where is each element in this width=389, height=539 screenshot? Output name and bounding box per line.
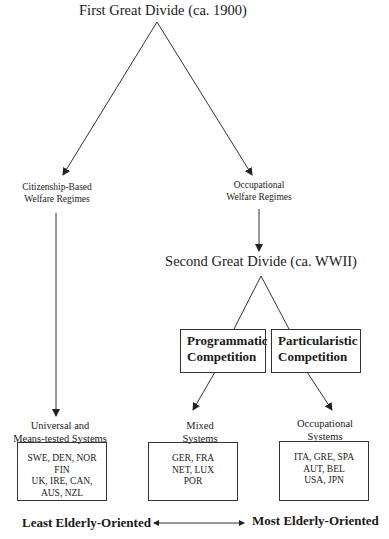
country-line: UK, IRE, CAN, [18,476,106,488]
first-divide-left-arrow [63,22,157,175]
second-divide-title: Second Great Divide (ca. WWII) [165,253,357,270]
programmatic-to-mixed-arrow [193,372,215,410]
particularistic-line2: Competition [278,349,356,365]
country-line: AUT, BEL [280,464,368,476]
country-line: POR [149,476,237,488]
least-elderly-oriented-label: Least Elderly-Oriented [22,515,151,531]
outcome-label-line1: Mixed [182,419,217,432]
citizenship-label-line1: Citizenship-Based [22,182,92,194]
occupational-regimes-label: Occupational Welfare Regimes [226,180,291,203]
programmatic-line1: Programmatic [187,333,261,349]
most-elderly-oriented-label: Most Elderly-Oriented [252,513,379,529]
country-line: FIN [18,465,106,477]
mixed-countries-box: GER, FRA NET, LUX POR [148,442,238,501]
country-line: USA, JPN [280,475,368,487]
country-line: ITA, GRE, SPA [280,452,368,464]
outcome-label-line1: Occupational [297,417,353,430]
citizenship-based-label: Citizenship-Based Welfare Regimes [22,182,92,205]
particularistic-line1: Particularistic [278,333,356,349]
occupational-label-line1: Occupational [226,180,291,192]
particularistic-competition-box: Particularistic Competition [271,329,361,373]
country-line: SWE, DEN, NOR [18,453,106,465]
programmatic-competition-box: Programmatic Competition [180,329,266,373]
first-divide-right-arrow [157,22,252,175]
second-divide-right-line [261,276,289,329]
citizenship-label-line2: Welfare Regimes [22,194,92,206]
particularistic-to-occupational-arrow [307,372,332,410]
second-divide-left-line [234,276,261,329]
country-line: AUS, NZL [18,488,106,500]
outcome-label-line1: Universal and [13,419,107,432]
first-divide-title: First Great Divide (ca. 1900) [79,2,247,19]
country-line: NET, LUX [149,465,237,477]
occupational-label-line2: Welfare Regimes [226,192,291,204]
occupational-countries-box: ITA, GRE, SPA AUT, BEL USA, JPN [279,441,369,501]
occupational-systems-label: Occupational Systems [297,417,353,443]
programmatic-line2: Competition [187,349,261,365]
country-line: GER, FRA [149,453,237,465]
universal-countries-box: SWE, DEN, NOR FIN UK, IRE, CAN, AUS, NZL [17,442,107,501]
